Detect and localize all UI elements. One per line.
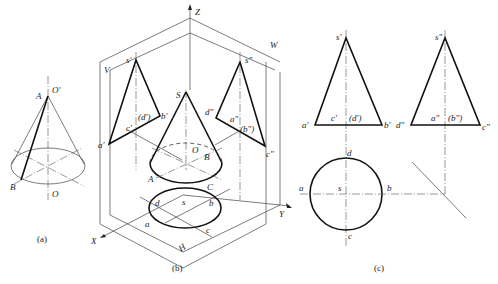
label-b-side-b: (b") xyxy=(240,124,254,134)
panel-b-three-plane-projection: Z X Y V W H s' a' b' c' (d') s" d" a" (b… xyxy=(90,4,292,273)
label-b-top-s: s xyxy=(182,197,186,207)
label-a-base-point: B xyxy=(10,182,16,192)
label-b-front-d: (d') xyxy=(138,112,150,122)
label-b-top-a: a xyxy=(145,219,150,229)
label-a-apex-axis: O' xyxy=(52,85,61,95)
plane-w-label: W xyxy=(270,40,279,50)
panel-a-cone-pictorial: A O' B O (a) xyxy=(10,76,85,244)
label-c-side-s: s" xyxy=(435,32,443,42)
label-b-front-b: b' xyxy=(161,111,169,121)
caption-c: (c) xyxy=(374,263,384,273)
label-c-front-d: (d') xyxy=(349,113,361,123)
axis-y-label: Y xyxy=(279,209,285,219)
plane-h-label: H xyxy=(176,241,188,254)
caption-a: (a) xyxy=(37,234,47,244)
label-c-top-c: c xyxy=(348,231,352,241)
label-a-base-center: O xyxy=(52,189,59,199)
axis-x-label: X xyxy=(90,236,97,246)
axis-z-label: Z xyxy=(195,7,201,17)
label-b-solid-a: A xyxy=(147,174,154,184)
label-a-apex: A xyxy=(35,91,42,101)
label-b-side-s: s" xyxy=(245,55,253,65)
label-b-side-d: d" xyxy=(205,107,214,117)
label-b-side-c: c" xyxy=(266,149,274,159)
label-b-side-a: a" xyxy=(230,114,239,124)
label-b-solid-center: O xyxy=(192,145,199,155)
label-c-front-b: b' xyxy=(384,120,392,130)
label-b-top-b: b xyxy=(209,198,214,208)
label-c-side-d: d" xyxy=(396,120,405,130)
label-c-top-a: a xyxy=(299,183,304,193)
label-c-side-a: a" xyxy=(431,113,440,123)
caption-b: (b) xyxy=(172,263,183,273)
label-b-top-d: d xyxy=(155,198,160,208)
label-c-front-c: c' xyxy=(331,113,338,123)
cone-projection-figure: A O' B O (a) Z X Y V W H s' a' xyxy=(0,0,498,284)
label-c-top-s: s xyxy=(338,183,342,193)
label-c-side-c: c" xyxy=(482,122,490,132)
label-b-solid-b: B xyxy=(204,152,210,162)
label-b-top-c: c xyxy=(206,225,210,235)
label-c-side-b: (b") xyxy=(448,113,462,123)
label-b-front-a: a' xyxy=(98,140,106,150)
panel-c-orthographic-views: s' a' c' (d') b' s" d" a" (b") c" d a s … xyxy=(299,30,490,273)
label-b-solid-c: C xyxy=(207,182,214,192)
label-c-top-d: d xyxy=(347,148,352,158)
label-c-front-a: a' xyxy=(302,120,310,130)
label-b-solid-apex: S xyxy=(176,90,181,100)
label-c-front-s: s' xyxy=(336,32,343,42)
label-c-top-b: b xyxy=(387,183,392,193)
